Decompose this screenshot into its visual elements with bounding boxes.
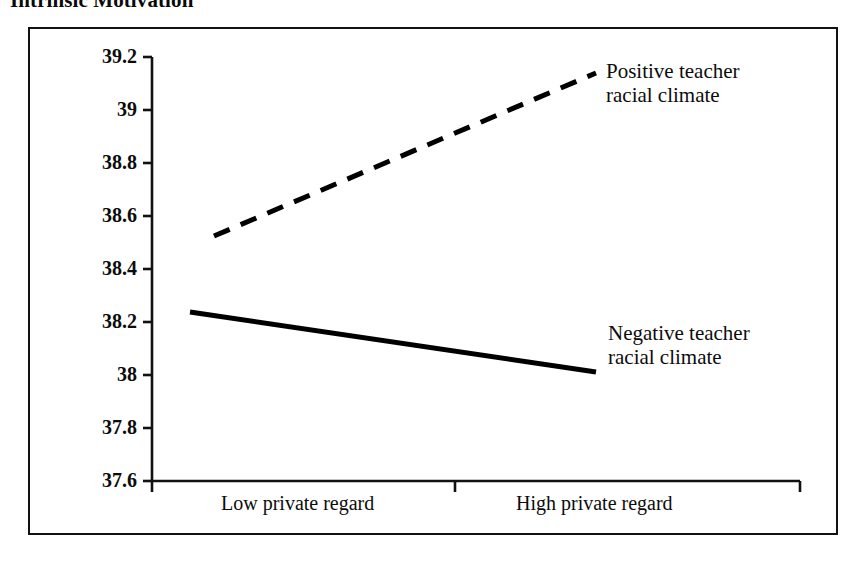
y-tick-label: 38.8 (57, 152, 137, 172)
series-label-positive: Positive teacher racial climate (606, 60, 740, 107)
series-label-negative-line1: Negative teacher (608, 321, 750, 345)
series-label-positive-line2: racial climate (606, 84, 740, 108)
x-tick-label-high: High private regard (516, 492, 673, 515)
y-tick-label: 38.2 (57, 311, 137, 331)
x-tick-label-low: Low private regard (221, 492, 374, 515)
y-tick-label: 38.4 (57, 258, 137, 278)
y-tick-label: 38 (57, 364, 137, 384)
y-tick-label: 37.6 (57, 470, 137, 490)
y-tick-label: 38.6 (57, 205, 137, 225)
y-tick-label: 37.8 (57, 417, 137, 437)
series-label-positive-line1: Positive teacher (606, 59, 740, 83)
chart-title: Intrinsic Motivation (10, 0, 193, 13)
series-label-negative-line2: racial climate (608, 346, 750, 370)
y-tick-label: 39.2 (57, 46, 137, 66)
chart-page: Intrinsic Motivation 39.2 (0, 0, 864, 562)
y-tick-label: 39 (57, 99, 137, 119)
series-label-negative: Negative teacher racial climate (608, 322, 750, 369)
